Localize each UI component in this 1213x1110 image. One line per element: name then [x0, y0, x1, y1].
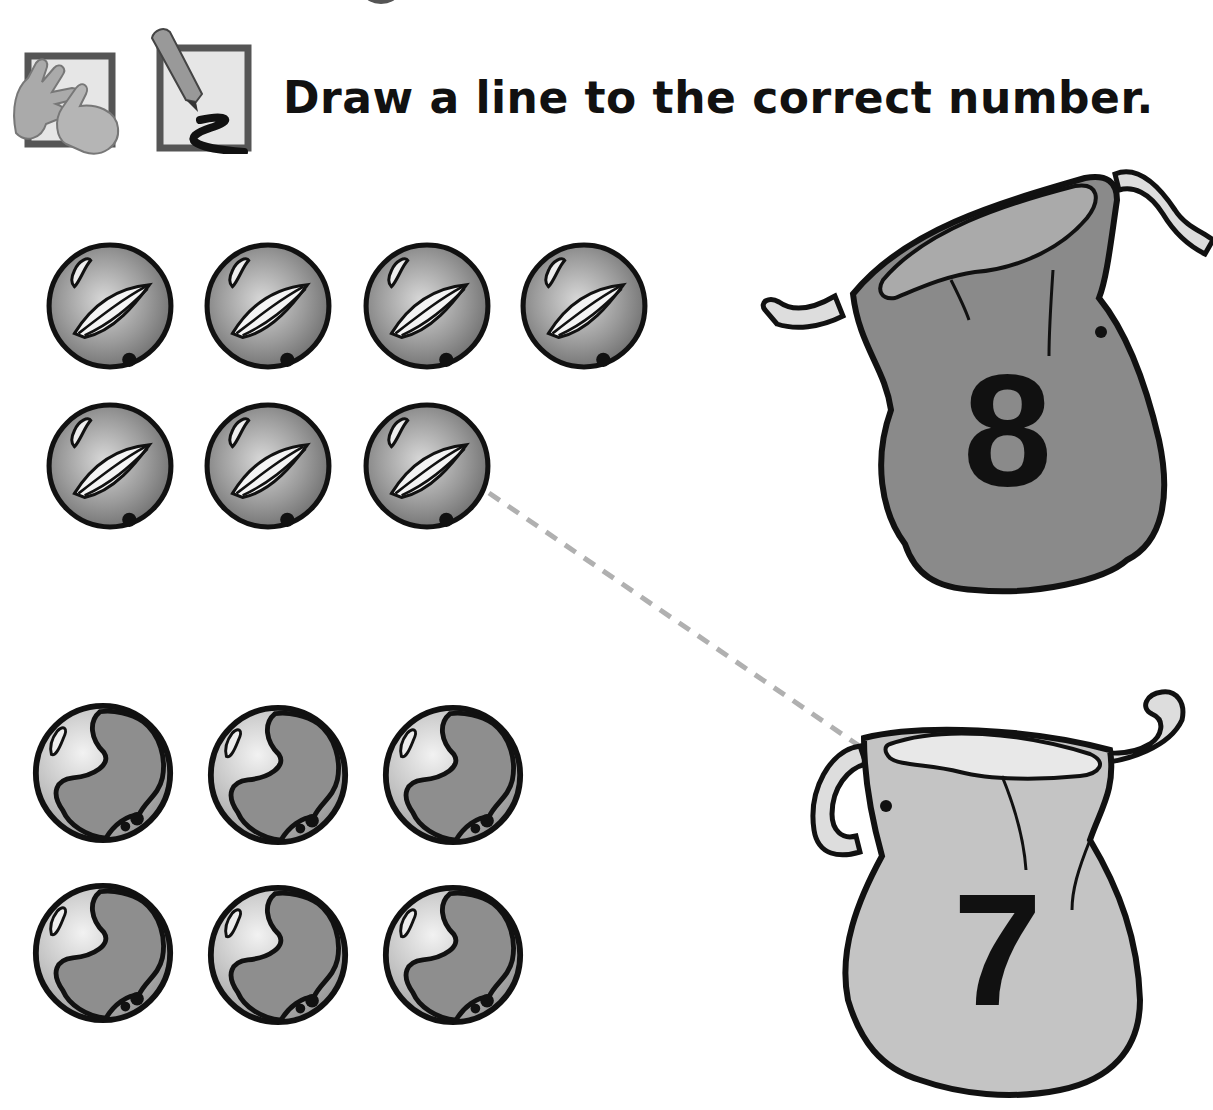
- bag-7[interactable]: 7: [790, 680, 1213, 1110]
- bag-8[interactable]: 8: [735, 160, 1213, 620]
- bag-number-7: 7: [953, 870, 1042, 1030]
- bag-number-8: 8: [963, 350, 1052, 510]
